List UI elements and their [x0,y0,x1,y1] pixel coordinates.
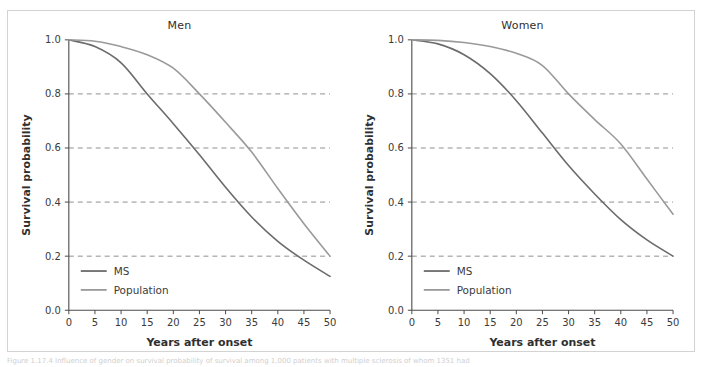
chart-panels: Men 0.00.20.40.60.81.0051015202530354045… [8,11,694,351]
x-tick-label: 30 [562,317,575,328]
x-axis-title: Years after onset [488,336,595,349]
x-tick-label: 15 [484,317,497,328]
y-tick-label: 0.0 [388,305,404,316]
legend-label-ms: MS [457,265,473,277]
x-tick-label: 15 [141,317,154,328]
x-tick-label: 25 [536,317,549,328]
y-tick-label: 0.4 [388,197,404,208]
chart-plot-women: 0.00.20.40.60.81.005101520253035404550Ye… [351,11,694,351]
y-tick-label: 0.8 [388,88,404,99]
y-tick-label: 0.6 [388,142,404,153]
legend-label-population: Population [457,284,512,296]
legend-label-population: Population [114,284,169,296]
legend-label-ms: MS [114,265,130,277]
figure-frame: Men 0.00.20.40.60.81.0051015202530354045… [7,10,695,352]
x-tick-label: 40 [614,317,627,328]
x-tick-label: 10 [458,317,471,328]
y-tick-label: 0.6 [45,142,61,153]
series-line-population [412,40,673,214]
x-tick-label: 25 [193,317,206,328]
x-tick-label: 20 [167,317,180,328]
x-tick-label: 30 [219,317,232,328]
panel-men: Men 0.00.20.40.60.81.0051015202530354045… [8,11,351,351]
chart-plot-men: 0.00.20.40.60.81.005101520253035404550Ye… [8,11,351,351]
y-axis-title: Survival probability [20,114,33,235]
x-axis-title: Years after onset [145,336,252,349]
y-tick-label: 1.0 [388,34,404,45]
y-tick-label: 0.0 [45,305,61,316]
x-tick-label: 20 [510,317,523,328]
y-tick-label: 0.2 [388,251,404,262]
series-line-ms [69,40,330,277]
figure-caption: Figure 1.17.4 Influence of gender on sur… [7,356,695,366]
x-tick-label: 0 [409,317,415,328]
x-tick-label: 45 [641,317,654,328]
x-tick-label: 10 [115,317,128,328]
y-axis-title: Survival probability [363,114,376,235]
x-tick-label: 0 [66,317,72,328]
x-tick-label: 50 [324,317,337,328]
y-tick-label: 0.8 [45,88,61,99]
x-tick-label: 40 [271,317,284,328]
y-tick-label: 1.0 [45,34,61,45]
x-tick-label: 35 [588,317,601,328]
y-tick-label: 0.2 [45,251,61,262]
y-tick-label: 0.4 [45,197,61,208]
x-tick-label: 35 [245,317,258,328]
x-tick-label: 50 [667,317,680,328]
x-tick-label: 45 [298,317,311,328]
panel-women: Women 0.00.20.40.60.81.00510152025303540… [351,11,694,351]
x-tick-label: 5 [92,317,98,328]
x-tick-label: 5 [435,317,441,328]
